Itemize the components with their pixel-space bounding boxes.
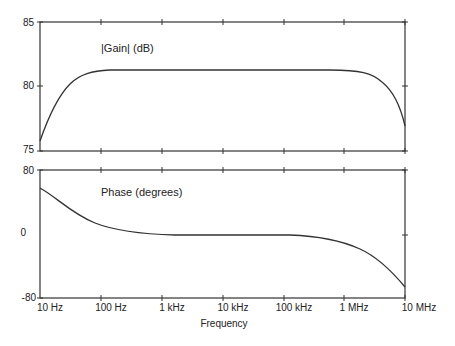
gain-x-ticks xyxy=(101,19,405,154)
phase-panel: 80 0 -80 Phase (degrees) xyxy=(20,165,408,303)
x-axis-title: Frequency xyxy=(200,318,247,329)
phase-panel-title: Phase (degrees) xyxy=(101,186,182,198)
bode-plot: 85 80 75 |Gain| (dB) 80 0 -80 Phase (deg… xyxy=(0,0,455,346)
x-tick-1mhz: 1 MHz xyxy=(340,302,369,313)
gain-curve xyxy=(40,70,405,141)
gain-panel: 85 80 75 |Gain| (dB) xyxy=(23,17,408,155)
gain-y-ticks xyxy=(37,22,408,151)
x-axis-labels: 10 Hz 100 Hz 1 kHz 10 kHz 100 kHz 1 MHz … xyxy=(37,302,436,329)
x-tick-10hz: 10 Hz xyxy=(37,302,63,313)
gain-plot-frame xyxy=(40,22,405,151)
x-tick-10mhz: 10 MHz xyxy=(402,302,436,313)
gain-y-tick-80: 80 xyxy=(23,80,35,91)
gain-panel-title: |Gain| (dB) xyxy=(101,42,154,54)
phase-curve xyxy=(40,188,405,287)
phase-y-tick-minus-80: -80 xyxy=(22,292,37,303)
x-tick-10khz: 10 kHz xyxy=(217,302,248,313)
gain-y-tick-75: 75 xyxy=(23,144,35,155)
x-tick-100hz: 100 Hz xyxy=(95,302,127,313)
x-tick-1khz: 1 kHz xyxy=(159,302,185,313)
phase-y-tick-0: 0 xyxy=(20,227,26,238)
phase-plot-frame xyxy=(40,170,405,298)
phase-y-tick-80: 80 xyxy=(23,165,35,176)
x-tick-100khz: 100 kHz xyxy=(276,302,313,313)
gain-y-tick-85: 85 xyxy=(23,17,35,28)
phase-y-ticks xyxy=(37,170,408,298)
